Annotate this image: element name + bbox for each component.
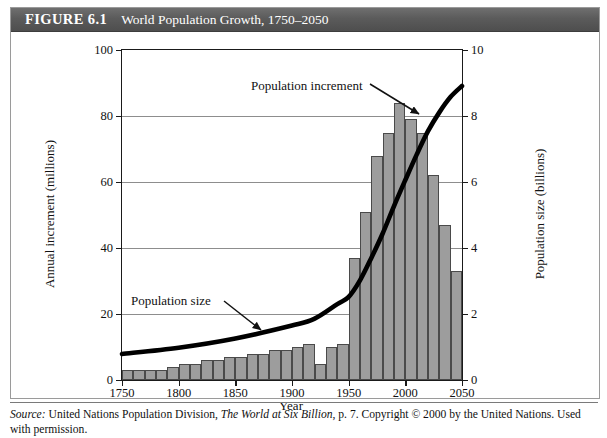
bar: [417, 133, 428, 381]
x-axis-tick-label: 1850: [223, 386, 248, 401]
x-axis-tick-label: 1900: [280, 386, 305, 401]
bar: [179, 364, 190, 381]
figure-title: World Population Growth, 1750–2050: [121, 12, 328, 28]
bar: [439, 225, 450, 380]
caption-divider: [10, 402, 598, 403]
bar: [326, 347, 337, 380]
annotation-population-increment: Population increment: [251, 78, 363, 94]
bar: [428, 175, 439, 380]
figure-number: FIGURE 6.1: [25, 11, 107, 28]
y-axis-left-tick-label: 40: [101, 241, 114, 256]
y-axis-right-tick: [462, 182, 468, 183]
x-axis-tick-label: 1750: [110, 386, 135, 401]
y-axis-left-tick-label: 80: [101, 109, 114, 124]
bar: [167, 367, 178, 380]
bar: [303, 344, 314, 380]
source-text: United Nations Population Division,: [46, 408, 221, 421]
x-axis-tick-label: 1950: [336, 386, 361, 401]
y-axis-right-tick-label: 8: [471, 109, 477, 124]
bar-series: [122, 50, 462, 380]
bar: [122, 370, 133, 380]
bar: [156, 370, 167, 380]
bar: [224, 357, 235, 380]
y-axis-right-tick-label: 4: [471, 241, 477, 256]
y-axis-left-tick: [116, 248, 122, 249]
bar: [269, 350, 280, 380]
bar: [258, 354, 269, 380]
y-axis-right-tick: [462, 50, 468, 51]
bar: [247, 354, 258, 380]
figure-container: FIGURE 6.1 World Population Growth, 1750…: [10, 7, 600, 399]
bar: [281, 350, 292, 380]
y-axis-right-tick-label: 10: [471, 43, 484, 58]
source-publication: The World at Six Billion: [221, 408, 333, 421]
bar: [337, 344, 348, 380]
y-axis-title-right: Population size (billions): [531, 49, 549, 379]
bar: [451, 271, 462, 380]
y-axis-right-tick-label: 2: [471, 307, 477, 322]
x-axis-tick-label: 1800: [166, 386, 191, 401]
y-axis-left-tick-label: 100: [94, 43, 113, 58]
bar: [360, 212, 371, 380]
bar: [371, 156, 382, 380]
bar: [213, 360, 224, 380]
bar: [145, 370, 156, 380]
y-axis-left-tick-label: 60: [101, 175, 114, 190]
x-axis-tick-label: 2000: [393, 386, 418, 401]
bar: [405, 119, 416, 380]
y-axis-left-tick: [116, 50, 122, 51]
bar: [190, 364, 201, 381]
source-caption: Source: United Nations Population Divisi…: [10, 408, 598, 438]
y-axis-left-tick: [116, 182, 122, 183]
y-axis-right-tick: [462, 116, 468, 117]
y-axis-right-tick: [462, 314, 468, 315]
bar: [383, 133, 394, 381]
y-axis-title-left-text: Annual increment (millions): [42, 140, 58, 288]
bar: [349, 258, 360, 380]
y-axis-title-right-text: Population size (billions): [532, 149, 548, 280]
bar: [201, 360, 212, 380]
y-axis-left-tick: [116, 116, 122, 117]
bar: [133, 370, 144, 380]
plot-area: 020406080100 0246810 1750180018501900195…: [121, 49, 463, 381]
y-axis-title-left: Annual increment (millions): [41, 49, 59, 379]
y-axis-right-tick-label: 6: [471, 175, 477, 190]
bar: [235, 357, 246, 380]
y-axis-left-tick: [116, 314, 122, 315]
source-label: Source:: [10, 408, 46, 421]
bar: [315, 364, 326, 381]
y-axis-right-tick: [462, 248, 468, 249]
figure-header: FIGURE 6.1 World Population Growth, 1750…: [11, 8, 599, 32]
annotation-population-size: Population size: [131, 293, 211, 309]
x-axis-tick-label: 2050: [450, 386, 475, 401]
y-axis-left-tick-label: 20: [101, 307, 114, 322]
bar: [394, 103, 405, 380]
bar: [292, 347, 303, 380]
